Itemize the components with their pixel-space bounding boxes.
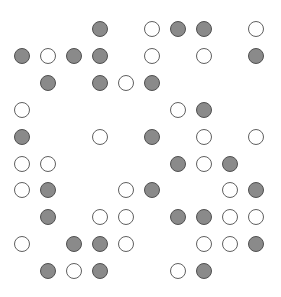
open-circle bbox=[222, 182, 238, 198]
open-circle bbox=[170, 102, 186, 118]
filled-circle bbox=[196, 209, 212, 225]
open-circle bbox=[118, 75, 134, 91]
filled-circle bbox=[144, 129, 160, 145]
open-circle bbox=[14, 182, 30, 198]
filled-circle bbox=[40, 263, 56, 279]
open-circle bbox=[14, 236, 30, 252]
open-circle bbox=[14, 102, 30, 118]
filled-circle bbox=[196, 263, 212, 279]
filled-circle bbox=[40, 182, 56, 198]
open-circle bbox=[118, 182, 134, 198]
open-circle bbox=[248, 129, 264, 145]
filled-circle bbox=[66, 236, 82, 252]
open-circle bbox=[196, 129, 212, 145]
open-circle bbox=[222, 209, 238, 225]
open-circle bbox=[118, 236, 134, 252]
open-circle bbox=[170, 263, 186, 279]
open-circle bbox=[40, 156, 56, 172]
filled-circle bbox=[40, 75, 56, 91]
filled-circle bbox=[92, 236, 108, 252]
filled-circle bbox=[170, 21, 186, 37]
filled-circle bbox=[144, 75, 160, 91]
filled-circle bbox=[66, 48, 82, 64]
open-circle bbox=[196, 236, 212, 252]
filled-circle bbox=[248, 48, 264, 64]
filled-circle bbox=[248, 236, 264, 252]
filled-circle bbox=[92, 75, 108, 91]
open-circle bbox=[66, 263, 82, 279]
open-circle bbox=[92, 129, 108, 145]
filled-circle bbox=[170, 156, 186, 172]
open-circle bbox=[118, 209, 134, 225]
filled-circle bbox=[92, 48, 108, 64]
filled-circle bbox=[92, 263, 108, 279]
filled-circle bbox=[196, 21, 212, 37]
open-circle bbox=[248, 21, 264, 37]
open-circle bbox=[14, 156, 30, 172]
filled-circle bbox=[144, 182, 160, 198]
filled-circle bbox=[92, 21, 108, 37]
filled-circle bbox=[196, 102, 212, 118]
open-circle bbox=[40, 48, 56, 64]
open-circle bbox=[196, 48, 212, 64]
filled-circle bbox=[40, 209, 56, 225]
dot-grid bbox=[0, 0, 281, 297]
open-circle bbox=[196, 156, 212, 172]
filled-circle bbox=[248, 182, 264, 198]
filled-circle bbox=[14, 48, 30, 64]
filled-circle bbox=[170, 209, 186, 225]
open-circle bbox=[222, 236, 238, 252]
open-circle bbox=[92, 209, 108, 225]
open-circle bbox=[144, 48, 160, 64]
filled-circle bbox=[222, 156, 238, 172]
open-circle bbox=[248, 209, 264, 225]
filled-circle bbox=[14, 129, 30, 145]
open-circle bbox=[144, 21, 160, 37]
